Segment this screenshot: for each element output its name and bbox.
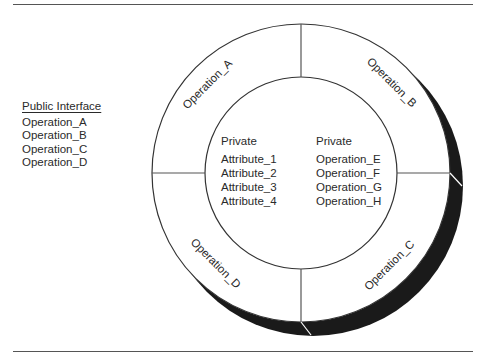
core-right-item: Operation_E	[316, 153, 381, 165]
core-right-item: Operation_H	[316, 195, 381, 207]
encapsulation-diagram: Operation_A Operation_B Operation_C Oper…	[0, 0, 484, 359]
core-right-heading: Private	[316, 135, 352, 147]
core-left-item: Attribute_4	[221, 195, 277, 207]
core-left-item: Attribute_3	[221, 181, 277, 193]
core-left-item: Attribute_1	[221, 153, 277, 165]
core-left-heading: Private	[221, 135, 257, 147]
core-right-item: Operation_F	[316, 167, 380, 179]
core-right-item: Operation_G	[316, 181, 382, 193]
core-left-item: Attribute_2	[221, 167, 277, 179]
